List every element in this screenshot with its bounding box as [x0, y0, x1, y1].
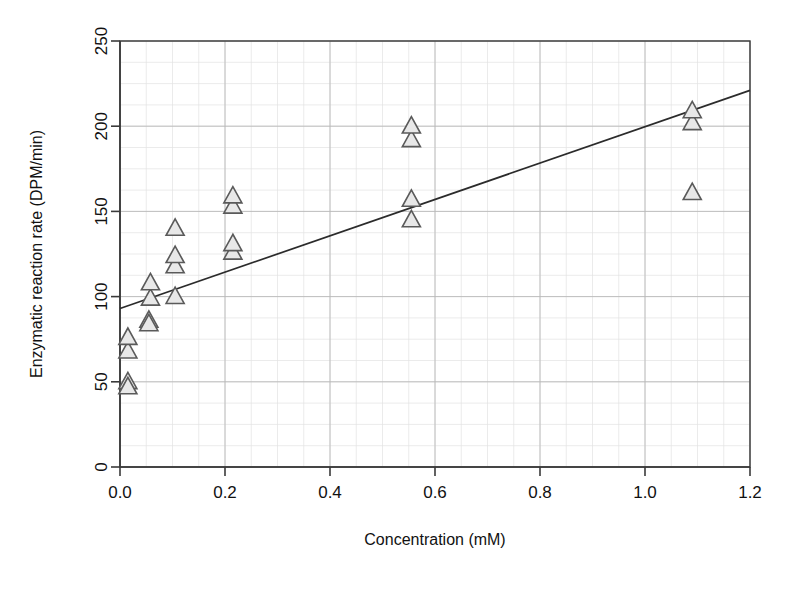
x-tick-label: 0.8 [528, 483, 552, 502]
data-point-marker [119, 328, 137, 344]
scatter-plot-svg: 0.00.20.40.60.81.01.2050100150200250 Con… [0, 0, 791, 593]
data-point-marker [402, 190, 420, 206]
data-point-marker [166, 287, 184, 303]
data-point-marker [402, 210, 420, 226]
x-tick-label: 0.6 [423, 483, 447, 502]
axis-ticks [111, 41, 750, 476]
axis-tick-labels: 0.00.20.40.60.81.01.2050100150200250 [92, 27, 762, 502]
x-tick-label: 1.0 [633, 483, 657, 502]
x-tick-label: 0.2 [213, 483, 237, 502]
data-points [119, 101, 701, 393]
figure-caption [0, 586, 791, 593]
y-tick-label: 250 [92, 27, 111, 55]
y-tick-label: 0 [92, 462, 111, 471]
x-tick-label: 1.2 [738, 483, 762, 502]
data-point-marker [166, 219, 184, 235]
x-tick-label: 0.0 [108, 483, 132, 502]
y-tick-label: 150 [92, 197, 111, 225]
x-tick-label: 0.4 [318, 483, 342, 502]
y-axis-title: Enzymatic reaction rate (DPM/min) [28, 130, 45, 378]
data-point-marker [224, 187, 242, 203]
data-point-marker [166, 246, 184, 262]
y-tick-label: 100 [92, 282, 111, 310]
data-point-marker [402, 117, 420, 133]
chart-figure: 0.00.20.40.60.81.01.2050100150200250 Con… [0, 0, 791, 593]
data-point-marker [683, 101, 701, 117]
data-point-marker [224, 234, 242, 250]
x-axis-title: Concentration (mM) [364, 531, 505, 548]
data-point-marker [683, 183, 701, 199]
y-tick-label: 50 [92, 372, 111, 391]
y-tick-label: 200 [92, 112, 111, 140]
data-point-marker [141, 273, 159, 289]
